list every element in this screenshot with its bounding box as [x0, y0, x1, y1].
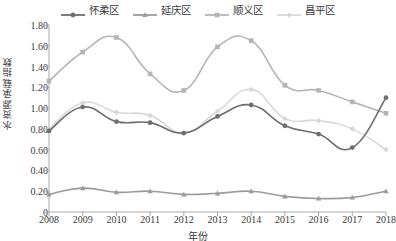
data-point [248, 87, 254, 93]
data-point [283, 123, 288, 128]
x-axis-tick-label: 2013 [208, 214, 228, 225]
data-point [80, 105, 85, 110]
data-point [316, 118, 322, 124]
data-point [114, 109, 120, 115]
x-axis-tick-label: 2008 [39, 214, 59, 225]
data-point [114, 35, 119, 40]
x-axis-tick-label: 2012 [174, 214, 194, 225]
data-point [148, 120, 153, 125]
x-axis-tick-label: 2009 [73, 214, 93, 225]
data-point [148, 71, 153, 76]
series-延庆区 [46, 185, 389, 200]
x-axis-tick-label: 2010 [106, 214, 126, 225]
x-axis-tick-label: 2017 [342, 214, 362, 225]
data-point [181, 88, 186, 93]
data-point [384, 95, 389, 100]
data-point [47, 129, 52, 134]
data-point [215, 44, 220, 49]
x-axis-tick-label: 2011 [140, 214, 160, 225]
series-line [49, 89, 386, 149]
data-point [147, 113, 153, 119]
x-axis-title: 年份 [0, 228, 395, 241]
data-point [283, 83, 288, 88]
x-axis-tick-label: 2016 [309, 214, 329, 225]
data-point [349, 126, 355, 132]
data-point [47, 79, 52, 84]
data-point [384, 111, 389, 116]
data-point [316, 88, 321, 93]
data-point [80, 50, 85, 55]
data-point [114, 119, 119, 124]
series-怀柔区 [47, 95, 389, 150]
data-point [249, 103, 254, 108]
data-point [249, 38, 254, 43]
x-axis-tick-label: 2014 [241, 214, 261, 225]
data-point [215, 114, 220, 119]
x-axis-tick-label: 2018 [376, 214, 396, 225]
data-point [350, 145, 355, 150]
data-point [181, 131, 186, 136]
x-axis-tick-label: 2015 [275, 214, 295, 225]
data-point [316, 132, 321, 137]
data-point [350, 100, 355, 105]
